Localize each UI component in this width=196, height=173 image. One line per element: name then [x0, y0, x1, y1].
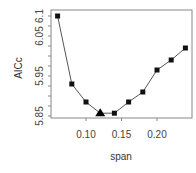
square-marker [183, 46, 188, 51]
square-marker [112, 111, 117, 116]
square-marker [84, 100, 89, 105]
series-line [58, 16, 186, 113]
plot-frame [51, 10, 192, 118]
x-tick-label: 0.15 [112, 129, 132, 140]
square-marker [169, 58, 174, 63]
square-marker [55, 14, 60, 19]
y-axis-title: AICc [13, 57, 24, 79]
x-axis-title: span [110, 151, 132, 162]
square-marker [155, 68, 160, 73]
y-tick-label: 6.05 [34, 26, 45, 46]
aicc-vs-span-chart: 5.855.956.056.1 0.100.150.20 AICc span [0, 0, 196, 173]
square-marker [140, 90, 145, 95]
minimum-triangle-marker [95, 108, 105, 116]
y-axis-ticks: 5.855.956.056.1 [34, 9, 51, 126]
y-tick-label: 5.95 [34, 66, 45, 86]
square-marker [126, 100, 131, 105]
y-tick-label: 5.85 [34, 106, 45, 126]
y-tick-label: 6.1 [34, 9, 45, 23]
x-tick-label: 0.20 [147, 129, 167, 140]
data-markers [55, 14, 188, 117]
x-tick-label: 0.10 [76, 129, 96, 140]
square-marker [69, 82, 74, 87]
x-axis-ticks: 0.100.150.20 [76, 118, 167, 140]
